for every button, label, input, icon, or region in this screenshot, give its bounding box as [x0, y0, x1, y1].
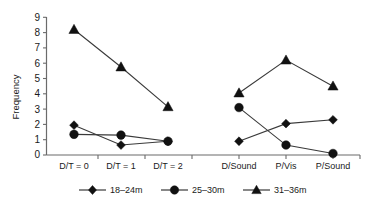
y-tick-label: 9	[34, 12, 40, 23]
triangle-marker-icon	[281, 55, 291, 64]
triangle-marker-icon	[163, 102, 173, 111]
legend-label: 31–36m	[274, 185, 307, 195]
y-tick-label: 6	[34, 58, 40, 69]
legend-item-18-24m: 18–24m	[79, 185, 143, 195]
circle-marker-icon	[329, 149, 338, 158]
y-tick-label: 0	[34, 149, 40, 160]
circle-marker-icon	[164, 137, 173, 146]
x-tick-label: D/T = 2	[153, 161, 183, 171]
triangle-marker-icon	[116, 62, 126, 71]
circle-marker-icon	[235, 103, 244, 112]
series-triangle	[69, 24, 338, 110]
y-axis-title-text: Frequency	[10, 74, 21, 119]
diamond-marker-icon	[117, 141, 126, 150]
y-tick-label: 1	[34, 134, 40, 145]
x-tick-label: D/Sound	[221, 161, 256, 171]
x-tick-label: D/T = 0	[59, 161, 89, 171]
y-tick-label: 8	[34, 27, 40, 38]
triangle-marker-icon	[69, 24, 79, 33]
legend-label: 18–24m	[110, 185, 143, 195]
line-chart: Frequency 0 1 2 3 4 5 6 7 8 9	[0, 0, 371, 209]
diamond-marker-icon	[89, 186, 97, 195]
y-tick-label: 3	[34, 104, 40, 115]
y-tick-label: 5	[34, 73, 40, 84]
x-axis-tick-labels: D/T = 0 D/T = 1 D/T = 2 D/Sound P/Vis P/…	[59, 161, 350, 171]
x-tick-label: P/Sound	[316, 161, 351, 171]
legend-item-31-36m: 31–36m	[243, 185, 307, 195]
diamond-marker-icon	[70, 121, 79, 130]
circle-marker-icon	[70, 130, 79, 139]
diamond-marker-icon	[235, 137, 244, 146]
circle-marker-icon	[117, 131, 126, 140]
triangle-marker-icon	[234, 88, 244, 97]
x-tick-label: D/T = 1	[106, 161, 136, 171]
y-tick-label: 7	[34, 42, 40, 53]
circle-marker-icon	[170, 186, 178, 194]
diamond-marker-icon	[329, 115, 338, 124]
circle-marker-icon	[282, 141, 291, 150]
chart-container: Frequency 0 1 2 3 4 5 6 7 8 9	[0, 0, 371, 209]
y-axis-title: Frequency	[10, 74, 21, 119]
y-tick-label: 2	[34, 119, 40, 130]
series-circle	[70, 103, 338, 158]
chart-legend: 18–24m 25–30m 31–36m	[79, 185, 307, 195]
legend-item-25-30m: 25–30m	[161, 185, 225, 195]
y-tick-label: 4	[34, 88, 40, 99]
y-axis-tick-labels: 0 1 2 3 4 5 6 7 8 9	[34, 12, 40, 161]
triangle-marker-icon	[328, 81, 338, 90]
data-series-layer	[69, 24, 338, 157]
series-diamond	[70, 115, 338, 149]
x-tick-label: P/Vis	[276, 161, 297, 171]
legend-label: 25–30m	[192, 185, 225, 195]
diamond-marker-icon	[282, 119, 291, 128]
series-line-segment	[239, 60, 333, 93]
y-axis	[43, 17, 47, 155]
x-axis	[47, 155, 361, 159]
